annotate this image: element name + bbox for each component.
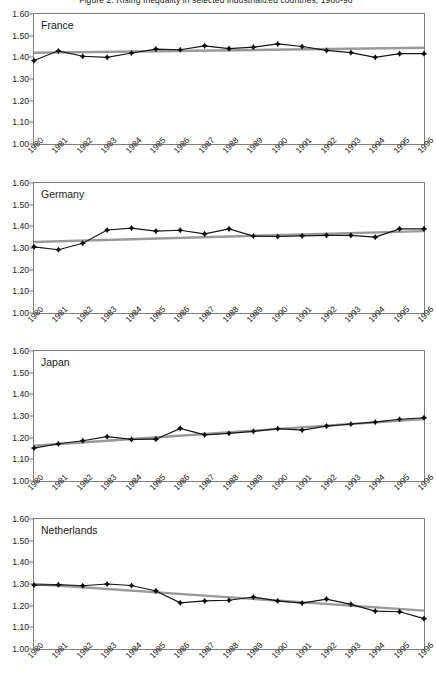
series-svg-japan — [34, 351, 424, 481]
data-point-marker — [128, 582, 134, 588]
series-svg-france — [34, 14, 424, 144]
y-tick-label: 1.20 — [12, 96, 29, 105]
data-point-marker — [104, 54, 110, 60]
data-point-marker — [31, 57, 37, 63]
y-tick-label: 1.50 — [12, 368, 29, 377]
data-point-marker — [372, 608, 378, 614]
data-point-marker — [177, 425, 183, 431]
data-point-marker — [202, 598, 208, 604]
series-svg-netherlands — [34, 519, 424, 649]
y-tick-label: 1.30 — [12, 412, 29, 421]
x-axis-netherlands: 1980198119821983198419851986198719881989… — [33, 652, 425, 685]
data-point-marker — [372, 54, 378, 60]
y-tick-label: 1.50 — [12, 31, 29, 40]
y-tick-label: 1.40 — [12, 558, 29, 567]
plot-area-france: France — [33, 13, 425, 145]
data-point-marker — [250, 428, 256, 434]
data-point-marker — [104, 433, 110, 439]
y-tick-label: 1.40 — [12, 390, 29, 399]
data-point-marker — [275, 425, 281, 431]
y-tick-label: 1.50 — [12, 200, 29, 209]
y-tick-label: 1.30 — [12, 244, 29, 253]
data-point-marker — [202, 43, 208, 49]
data-point-marker — [421, 51, 427, 57]
y-tick-label: 1.10 — [12, 623, 29, 632]
plot-area-japan: Japan — [33, 350, 425, 482]
y-tick-label: 1.30 — [12, 75, 29, 84]
data-point-marker — [348, 421, 354, 427]
data-point-marker — [153, 228, 159, 234]
data-point-marker — [177, 600, 183, 606]
data-point-marker — [104, 581, 110, 587]
y-tick-label: 1.40 — [12, 53, 29, 62]
data-point-marker — [55, 247, 61, 253]
y-tick-label: 1.60 — [12, 347, 29, 356]
y-tick-label: 1.50 — [12, 536, 29, 545]
data-point-marker — [323, 596, 329, 602]
data-point-marker — [104, 227, 110, 233]
data-point-marker — [372, 234, 378, 240]
y-tick-label: 1.20 — [12, 265, 29, 274]
data-point-marker — [128, 225, 134, 231]
data-point-marker — [348, 49, 354, 55]
data-point-marker — [275, 598, 281, 604]
series-svg-germany — [34, 183, 424, 313]
data-point-marker — [128, 436, 134, 442]
data-point-marker — [421, 616, 427, 622]
y-tick-label: 1.40 — [12, 222, 29, 231]
y-tick-label: 1.20 — [12, 601, 29, 610]
y-tick-label: 1.60 — [12, 515, 29, 524]
data-point-marker — [275, 41, 281, 47]
y-tick-label: 1.20 — [12, 433, 29, 442]
figure-title: Figure 2. Rising Inequality in selected … — [0, 0, 432, 6]
data-point-marker — [31, 244, 37, 250]
y-tick-label: 1.60 — [12, 10, 29, 19]
data-point-marker — [397, 51, 403, 57]
y-tick-label: 1.10 — [12, 118, 29, 127]
data-point-marker — [372, 419, 378, 425]
y-tick-label: 1.10 — [12, 455, 29, 464]
y-tick-label: 1.30 — [12, 580, 29, 589]
data-point-marker — [250, 233, 256, 239]
data-point-marker — [226, 226, 232, 232]
x-axis-france: 1980198119821983198419851986198719881989… — [33, 147, 425, 187]
data-point-marker — [323, 423, 329, 429]
y-tick-label: 1.10 — [12, 287, 29, 296]
data-point-marker — [55, 441, 61, 447]
data-point-marker — [299, 600, 305, 606]
data-point-marker — [80, 53, 86, 59]
data-point-marker — [177, 227, 183, 233]
y-tick-label: 1.60 — [12, 179, 29, 188]
plot-area-germany: Germany — [33, 182, 425, 314]
plot-area-netherlands: Netherlands — [33, 518, 425, 650]
